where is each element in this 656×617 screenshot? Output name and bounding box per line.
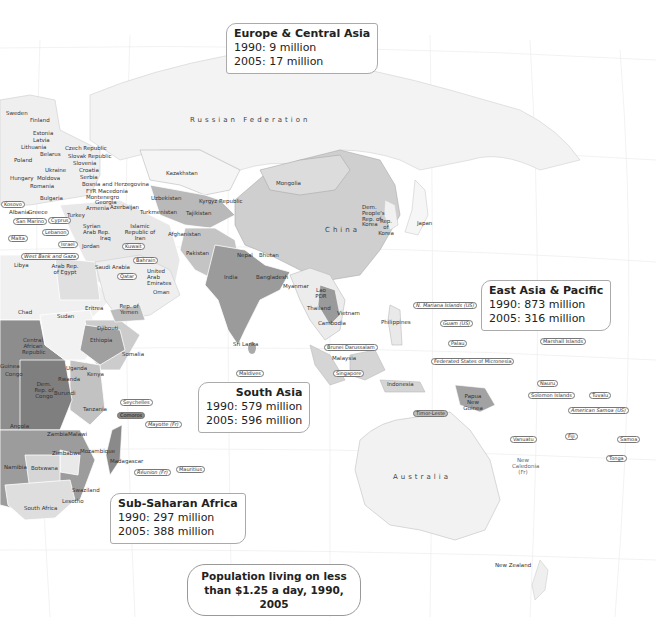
label-malawi: Malawi: [68, 432, 87, 438]
label-angola: Angola: [10, 424, 29, 430]
label-uae: United Arab Emirates: [147, 269, 175, 286]
label-madagascar: Madagascar: [110, 459, 143, 465]
label-vietnam: Vietnam: [337, 311, 360, 317]
label-reunion: Réunion (Fr): [134, 469, 171, 476]
label-bosnia: Bosnia and Herzegovina: [82, 182, 149, 188]
label-australia: Australia: [393, 474, 451, 481]
label-kazakhstan: Kazakhstan: [166, 171, 198, 177]
label-mayotte: Mayotte (Fr): [145, 421, 182, 428]
label-maldives: Maldives: [236, 370, 264, 377]
label-belarus: Belarus: [40, 152, 61, 158]
label-jordan: Jordan: [82, 244, 100, 250]
label-serbia: Serbia: [80, 175, 98, 181]
label-comoros: Comoros: [117, 412, 145, 419]
label-romania: Romania: [30, 184, 54, 190]
label-qatar: Qatar: [117, 273, 137, 280]
land-new-zealand: [532, 560, 548, 600]
label-singapore: Singapore: [333, 370, 364, 377]
region-2005: 2005: 316 million: [489, 312, 603, 326]
legend-line-2: than $1.25 a day, 1990, 2005: [192, 583, 356, 611]
label-zimbabwe: Zimbabwe: [52, 451, 81, 457]
label-israel: Israel: [58, 241, 78, 248]
region-1990: 1990: 9 million: [234, 41, 370, 55]
label-philippines: Philippines: [381, 320, 411, 326]
label-kenya: Kenya: [87, 372, 104, 378]
label-zambia: Zambia: [47, 432, 68, 438]
label-yemen: Rep. of Yemen: [117, 304, 141, 316]
label-timor: Timor-Leste: [413, 410, 448, 417]
label-samoa: Samoa: [617, 436, 640, 443]
label-sri-lanka: Sri Lanka: [233, 342, 258, 348]
callout-sub-saharan-africa: Sub-Saharan Africa 1990: 297 million 200…: [110, 493, 246, 544]
label-bhutan: Bhutan: [259, 253, 279, 259]
label-n-mariana: N. Mariana Islands (US): [413, 302, 477, 309]
label-drc: Dem. Rep. of Congo: [32, 382, 56, 399]
label-syria: Syrian Arab Rep.: [83, 224, 115, 236]
label-tonga: Tonga: [606, 455, 627, 462]
label-slovak: Slovak Republic: [68, 154, 111, 160]
label-nepal: Nepal: [237, 253, 253, 259]
region-1990: 1990: 579 million: [206, 400, 302, 414]
label-san-marino: San Marino: [13, 218, 47, 225]
label-chad: Chad: [18, 310, 32, 316]
label-iraq: Iraq: [100, 236, 111, 242]
region-2005: 2005: 388 million: [118, 525, 238, 539]
label-azerbaijan: Azerbaijan: [110, 205, 139, 211]
label-myanmar: Myanmar: [283, 284, 309, 290]
label-lithuania: Lithuania: [21, 145, 46, 151]
label-pakistan: Pakistan: [186, 251, 209, 257]
label-car: Central African Republic: [22, 338, 44, 355]
label-kosovo: Kosovo: [1, 201, 25, 208]
label-moldova: Moldova: [37, 176, 60, 182]
region-1990: 1990: 873 million: [489, 298, 603, 312]
label-tanzania: Tanzania: [83, 407, 107, 413]
label-finland: Finland: [30, 118, 50, 124]
label-ukraine: Ukraine: [45, 168, 66, 174]
label-somalia: Somalia: [122, 352, 144, 358]
label-czech: Czech Republic: [65, 146, 107, 152]
label-botswana: Botswana: [31, 466, 58, 472]
legend-line-1: Population living on less: [192, 569, 356, 583]
label-lebanon: Lebanon: [42, 229, 69, 236]
label-guam: Guam (US): [440, 320, 473, 327]
label-oman: Oman: [153, 290, 170, 296]
label-armenia: Armenia: [86, 206, 109, 212]
label-fiji: Fiji: [565, 433, 578, 440]
label-marshall: Marshall Islands: [540, 338, 586, 345]
label-burundi: Burundi: [54, 391, 76, 397]
label-palau: Palau: [448, 340, 467, 347]
label-iran: Islamic Republic of Iran: [119, 224, 161, 241]
label-swaziland: Swaziland: [72, 488, 100, 494]
map-title-legend: Population living on less than $1.25 a d…: [187, 564, 361, 616]
label-guinea: Guinea: [0, 364, 20, 370]
label-png: Papua New Guinea: [461, 394, 485, 411]
label-rwanda: Rwanda: [58, 377, 80, 383]
label-tuvalu: Tuvalu: [589, 392, 611, 399]
callout-europe-central-asia: Europe & Central Asia 1990: 9 million 20…: [226, 23, 378, 74]
label-turkey: Turkey: [67, 213, 85, 219]
label-mauritius: Mauritius: [176, 466, 205, 473]
region-2005: 2005: 596 million: [206, 414, 302, 428]
label-indonesia: Indonesia: [387, 382, 414, 388]
label-korea: Rep. of Korea: [378, 219, 394, 236]
callout-south-asia: South Asia 1990: 579 million 2005: 596 m…: [198, 382, 310, 433]
label-estonia: Estonia: [33, 131, 53, 137]
label-russia: Russian Federation: [190, 117, 310, 124]
label-lao: Lao PDR: [313, 288, 329, 300]
label-seychelles: Seychelles: [120, 399, 153, 406]
label-sweden: Sweden: [6, 111, 28, 117]
label-latvia: Latvia: [33, 138, 50, 144]
label-bulgaria: Bulgaria: [40, 196, 63, 202]
label-nauru: Nauru: [537, 380, 558, 387]
label-afghanistan: Afghanistan: [168, 232, 201, 238]
label-bangladesh: Bangladesh: [256, 275, 288, 281]
label-croatia: Croatia: [79, 168, 99, 174]
label-djibouti: Djibouti: [97, 326, 118, 332]
label-uzbekistan: Uzbekistan: [151, 196, 181, 202]
label-namibia: Namibia: [4, 465, 27, 471]
label-malaysia: Malaysia: [332, 356, 356, 362]
label-am-samoa: American Samoa (US): [568, 407, 629, 414]
label-tajikistan: Tajikistan: [186, 211, 211, 217]
label-sudan: Sudan: [57, 314, 74, 320]
label-hungary: Hungary: [10, 176, 34, 182]
